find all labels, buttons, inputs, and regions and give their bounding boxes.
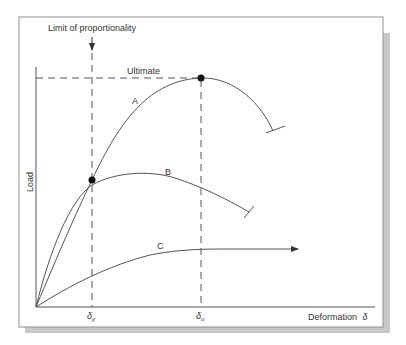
chart-frame xyxy=(19,17,383,327)
x-axis-label-text: Deformation xyxy=(308,312,357,322)
x-axis-label: Deformation δ xyxy=(308,312,369,322)
load-deformation-figure: Limit of proportionality Ultimate A B C … xyxy=(0,0,406,345)
ultimate-point xyxy=(198,75,205,82)
limit-of-proportionality-point xyxy=(89,177,96,184)
curve-c-label: C xyxy=(157,241,164,251)
chart-canvas: Limit of proportionality Ultimate A B C … xyxy=(0,0,406,345)
curve-b-label: B xyxy=(165,167,171,177)
limit-of-proportionality-label: Limit of proportionality xyxy=(48,23,137,33)
curve-a-label: A xyxy=(132,96,138,106)
ultimate-label: Ultimate xyxy=(127,66,160,76)
y-axis-label: Load xyxy=(25,172,35,192)
